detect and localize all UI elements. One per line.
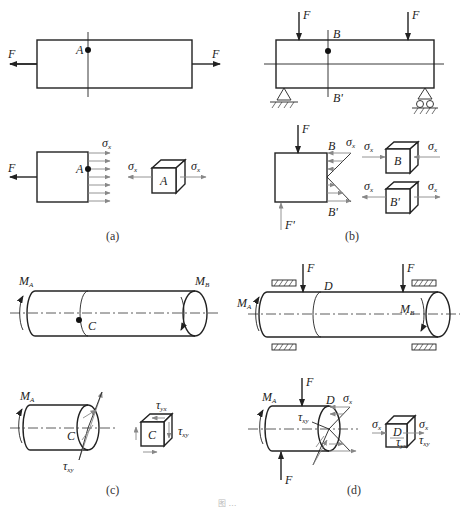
svg-text:D: D [325, 393, 335, 407]
svg-text:MB: MB [194, 274, 210, 289]
svg-text:τxy: τxy [298, 410, 309, 425]
svg-text:A: A [159, 174, 168, 188]
svg-text:MA: MA [236, 296, 252, 311]
shaft-combined-loading: F F D MA MB [236, 261, 460, 350]
svg-text:σx: σx [346, 135, 356, 150]
shaft-section-d: F F MA D σx τxy [248, 375, 358, 487]
svg-text:MA: MA [18, 274, 34, 289]
uniform-stress-arrows [88, 153, 110, 201]
svg-text:τxy: τxy [419, 433, 430, 448]
svg-text:F: F [305, 375, 314, 389]
svg-text:C: C [148, 428, 157, 442]
free-body-section: F A σx [7, 136, 112, 202]
svg-text:B': B' [328, 205, 338, 219]
svg-text:F: F [406, 261, 415, 275]
svg-text:F: F [306, 261, 315, 275]
svg-text:τxy: τxy [63, 459, 74, 474]
svg-text:B': B' [333, 91, 343, 105]
svg-text:D: D [323, 279, 333, 293]
svg-text:σx: σx [428, 179, 438, 194]
svg-text:F: F [411, 8, 420, 22]
shaft-section-c: MA C τxy [10, 389, 118, 474]
panel-b: B B' F F [264, 8, 444, 243]
shaft-in-torsion: C MA MB [10, 274, 220, 336]
stress-element-c: C τyx τxy [136, 398, 189, 452]
svg-text:F: F [301, 122, 310, 136]
point-a-label: A [75, 43, 84, 57]
svg-text:σx: σx [372, 417, 382, 432]
point-a-dot [85, 47, 91, 53]
svg-text:σx: σx [419, 417, 429, 432]
stress-element-b-prime: B' σx σx [362, 179, 440, 213]
pin-support [270, 88, 298, 108]
svg-text:MB: MB [399, 302, 415, 317]
sigma-x-label: σx [102, 136, 112, 151]
svg-text:MA: MA [261, 390, 277, 405]
svg-text:A: A [75, 162, 84, 176]
svg-text:σx: σx [364, 179, 374, 194]
svg-text:σx: σx [428, 139, 438, 154]
beam-section-free-body: F F' B B' σx [275, 122, 356, 232]
svg-text:F': F' [284, 218, 295, 232]
svg-text:B: B [394, 154, 402, 168]
figure-caption: 图 … [218, 499, 237, 508]
svg-text:B': B' [390, 195, 400, 209]
svg-text:σx: σx [191, 159, 201, 174]
panel-d: F F D MA MB F F MA [236, 261, 460, 497]
panel-a: A F F F A σx A [7, 32, 220, 243]
simply-supported-beam: B B' F F [264, 8, 444, 114]
svg-text:MA: MA [19, 389, 35, 404]
svg-text:σx: σx [343, 391, 353, 406]
svg-text:τyx: τyx [156, 398, 167, 413]
svg-text:σx: σx [128, 159, 138, 174]
svg-text:C: C [67, 429, 76, 443]
svg-text:B: B [333, 27, 341, 41]
stress-element-b: B σx σx [362, 139, 440, 173]
panel-c: C MA MB MA C τxy [10, 274, 220, 497]
panel-c-caption: (c) [106, 483, 119, 497]
svg-text:C: C [88, 319, 97, 333]
svg-text:σx: σx [364, 139, 374, 154]
stress-element-d: D σx σx τyx τxy [372, 416, 430, 450]
svg-text:F: F [7, 161, 16, 175]
force-left-label: F [7, 47, 16, 61]
panel-d-caption: (d) [347, 483, 361, 497]
svg-text:B: B [328, 139, 336, 153]
svg-text:τxy: τxy [178, 424, 189, 439]
roller-support [412, 88, 438, 114]
linear-stress-distribution [327, 153, 351, 202]
force-right-label: F [211, 47, 220, 61]
panel-a-caption: (a) [106, 229, 119, 243]
svg-text:F: F [302, 8, 311, 22]
panel-b-caption: (b) [345, 229, 359, 243]
bar-under-tension: A F F [7, 32, 220, 97]
stress-state-figure: A F F F A σx A [0, 0, 465, 509]
stress-element-a: A σx σx [128, 159, 206, 193]
svg-text:F: F [284, 473, 293, 487]
